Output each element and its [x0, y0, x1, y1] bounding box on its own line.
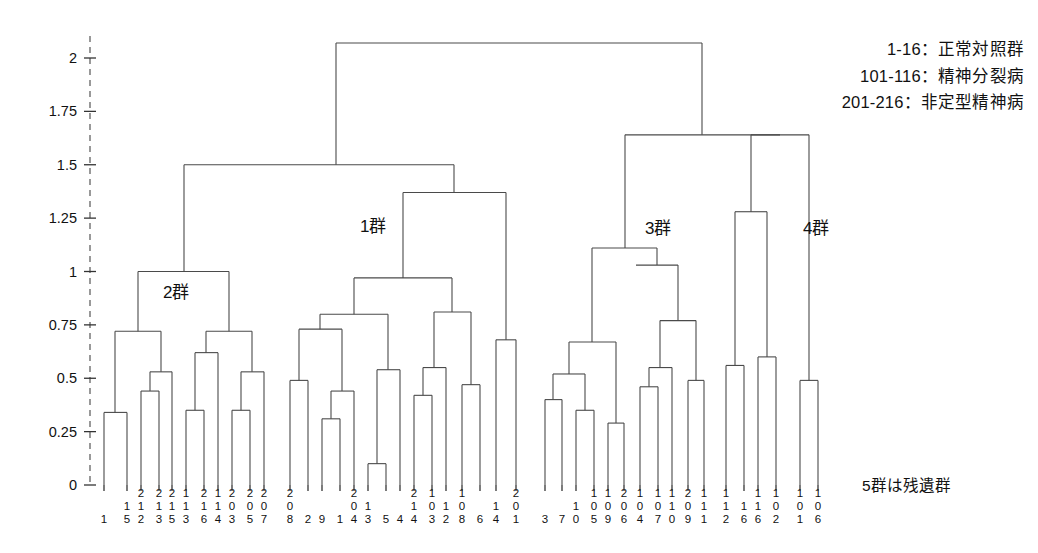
leaf-label-digit: 6 — [621, 513, 627, 525]
dendrogram-figure: 00.250.50.7511.251.51.752 11521221321511… — [0, 0, 1038, 553]
leaf-label-digit: 2 — [443, 513, 449, 525]
dendrogram-tree — [104, 43, 818, 485]
leaf-label-digit: 9 — [605, 513, 611, 525]
leaf-label-digit: 5 — [247, 513, 253, 525]
leaf-label-digit: 8 — [459, 513, 465, 525]
leaf-label-digit: 5 — [383, 513, 389, 525]
leaf-label-digit: 5 — [169, 513, 175, 525]
leaf-label-digit: 4 — [215, 513, 222, 525]
leaf-label-digit: 4 — [351, 513, 358, 525]
leaf-label-digit: 3 — [183, 513, 189, 525]
leaf-label-digit: 0 — [637, 500, 643, 512]
leaf-label-digit: 3 — [542, 513, 548, 525]
leaf-label-digit: 1 — [797, 513, 803, 525]
leaf-label-digit: 0 — [247, 500, 253, 512]
leaf-labels: 1152122132151132161142032052072082912041… — [101, 485, 821, 525]
leaf-label-digit: 1 — [183, 500, 189, 512]
legend-line-control: 1-16：正常対照群 — [842, 36, 1024, 63]
leaf-label-digit: 9 — [319, 513, 325, 525]
y-tick-label: 0.5 — [57, 370, 77, 386]
leaf-label-digit: 0 — [287, 500, 293, 512]
leaf-label-digit: 7 — [655, 513, 661, 525]
leaf-label-digit: 3 — [229, 513, 235, 525]
y-tick-label: 1.25 — [49, 210, 77, 226]
leaf-label-digit: 1 — [156, 500, 162, 512]
leaf-label-digit: 0 — [815, 500, 821, 512]
leaf-label-digit: 4 — [411, 513, 418, 525]
leaf-label-digit: 6 — [477, 513, 483, 525]
leaf-label-digit: 9 — [685, 513, 691, 525]
leaf-label-digit: 3 — [429, 513, 435, 525]
leaf-label-digit: 1 — [443, 500, 449, 512]
leaf-label-digit: 0 — [605, 500, 611, 512]
leaf-label-digit: 0 — [351, 500, 357, 512]
legend-line-schizophrenia: 101-116：精神分裂病 — [842, 63, 1024, 90]
leaf-label-digit: 2 — [773, 513, 779, 525]
leaf-label-digit: 1 — [493, 500, 499, 512]
leaf-label-digit: 1 — [169, 500, 175, 512]
leaf-label-digit: 1 — [201, 500, 207, 512]
leaf-label-digit: 4 — [493, 513, 500, 525]
leaf-label-digit: 0 — [261, 500, 267, 512]
leaf-label-digit: 3 — [365, 513, 371, 525]
leaf-label-digit: 1 — [337, 513, 343, 525]
leaf-label-digit: 7 — [261, 513, 267, 525]
leaf-label-digit: 1 — [365, 500, 371, 512]
leaf-label-digit: 0 — [459, 500, 465, 512]
leaf-label-digit: 6 — [755, 513, 761, 525]
cluster-label-3: 3群 — [645, 214, 671, 239]
cluster-label-2: 2群 — [163, 278, 189, 303]
y-tick-label: 1.5 — [57, 157, 77, 173]
leaf-label-digit: 0 — [229, 500, 235, 512]
leaf-label-digit: 0 — [513, 500, 519, 512]
leaf-label-digit: 1 — [138, 500, 144, 512]
leaf-label-digit: 0 — [685, 500, 691, 512]
leaf-label-digit: 1 — [701, 500, 707, 512]
leaf-label-digit: 0 — [429, 500, 435, 512]
leaf-label-digit: 1 — [513, 513, 519, 525]
leaf-label-digit: 1 — [723, 500, 729, 512]
y-tick-label: 0.25 — [49, 424, 77, 440]
leaf-label-digit: 2 — [305, 513, 311, 525]
leaf-label-digit: 0 — [591, 500, 597, 512]
footnote-residual-group: 5群は残遺群 — [862, 473, 951, 495]
y-tick-label: 1.75 — [49, 103, 77, 119]
leaf-label-digit: 0 — [573, 513, 579, 525]
leaf-label-digit: 1 — [573, 500, 579, 512]
leaf-label-digit: 0 — [669, 513, 675, 525]
legend-line-atypical: 201-216：非定型精神病 — [842, 89, 1024, 116]
leaf-label-digit: 1 — [669, 500, 675, 512]
cluster-label-4: 4群 — [803, 214, 829, 239]
leaf-label-digit: 0 — [797, 500, 803, 512]
leaf-label-digit: 2 — [138, 513, 144, 525]
leaf-label-digit: 0 — [655, 500, 661, 512]
leaf-label-digit: 6 — [815, 513, 821, 525]
leaf-label-digit: 1 — [701, 513, 707, 525]
y-axis: 00.250.50.7511.251.51.752 — [49, 36, 96, 493]
cluster-label-1: 1群 — [360, 212, 386, 237]
leaf-label-digit: 1 — [101, 513, 107, 525]
leaf-label-digit: 4 — [397, 513, 404, 525]
y-tick-label: 0.75 — [49, 317, 77, 333]
leaf-label-digit: 0 — [773, 500, 779, 512]
leaf-label-digit: 1 — [411, 500, 417, 512]
leaf-label-digit: 1 — [124, 500, 130, 512]
leaf-label-digit: 2 — [723, 513, 729, 525]
leaf-label-digit: 1 — [741, 500, 747, 512]
y-tick-label: 0 — [69, 477, 77, 493]
legend: 1-16：正常対照群 101-116：精神分裂病 201-216：非定型精神病 — [842, 36, 1024, 116]
leaf-label-digit: 1 — [215, 500, 221, 512]
leaf-label-digit: 1 — [755, 500, 761, 512]
leaf-label-digit: 5 — [591, 513, 597, 525]
leaf-label-digit: 6 — [741, 513, 747, 525]
leaf-label-digit: 4 — [637, 513, 644, 525]
y-tick-label: 2 — [69, 50, 77, 66]
leaf-label-digit: 0 — [621, 500, 627, 512]
leaf-label-digit: 5 — [124, 513, 130, 525]
leaf-label-digit: 6 — [201, 513, 207, 525]
leaf-label-digit: 8 — [287, 513, 293, 525]
y-tick-label: 1 — [69, 264, 77, 280]
leaf-label-digit: 3 — [156, 513, 162, 525]
leaf-label-digit: 7 — [559, 513, 565, 525]
